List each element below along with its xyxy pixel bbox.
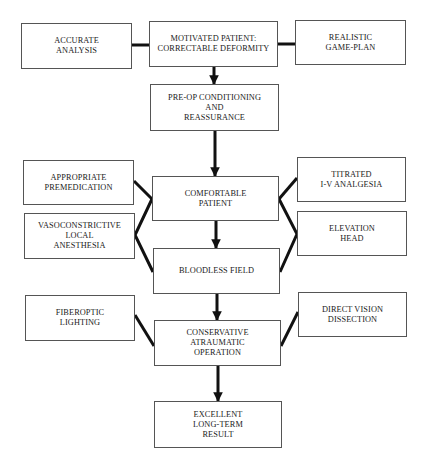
node-label: ELEVATION HEAD <box>329 224 375 244</box>
node-fiberoptic-lighting: FIBEROPTIC LIGHTING <box>25 295 135 341</box>
node-label: BLOODLESS FIELD <box>179 266 254 276</box>
node-label: DIRECT VISION DISSECTION <box>322 305 383 325</box>
node-label: TITRATED I-V ANALGESIA <box>321 170 383 190</box>
node-direct-vision-dissection: DIRECT VISION DISSECTION <box>298 292 407 337</box>
node-accurate-analysis: ACCURATE ANALYSIS <box>21 23 132 69</box>
connector-premedication-to-comfortable <box>134 181 152 199</box>
node-label: PRE-OP CONDITIONING AND REASSURANCE <box>168 93 261 123</box>
node-label: VASOCONSTRICTIVE LOCAL ANESTHESIA <box>38 221 121 251</box>
node-label: MOTIVATED PATIENT: CORRECTABLE DEFORMITY <box>158 34 270 54</box>
node-label: APPROPRIATE PREMEDICATION <box>44 173 112 193</box>
node-label: COMFORTABLE PATIENT <box>185 189 247 209</box>
connector-titrated-to-comfortable <box>279 178 297 199</box>
node-motivated-patient: MOTIVATED PATIENT: CORRECTABLE DEFORMITY <box>149 21 278 67</box>
node-elevation-head: ELEVATION HEAD <box>297 211 407 256</box>
node-label: FIBEROPTIC LIGHTING <box>56 308 104 328</box>
node-excellent-long-term-result: EXCELLENT LONG-TERM RESULT <box>154 401 282 448</box>
connector-directvision-to-conservative <box>281 312 298 346</box>
connector-elevation-to-comfortable-bloodless <box>279 199 297 272</box>
node-label: EXCELLENT LONG-TERM RESULT <box>193 410 243 440</box>
node-bloodless-field: BLOODLESS FIELD <box>153 248 280 294</box>
node-conservative-atraumatic-operation: CONSERVATIVE ATRAUMATIC OPERATION <box>154 320 281 366</box>
node-label: ACCURATE ANALYSIS <box>54 36 99 56</box>
connector-vasoconstrictive-to-comfortable-bloodless <box>135 199 153 272</box>
node-label: REALISTIC GAME-PLAN <box>326 33 376 53</box>
node-realistic-game-plan: REALISTIC GAME-PLAN <box>295 20 406 65</box>
node-label: CONSERVATIVE ATRAUMATIC OPERATION <box>186 328 248 358</box>
node-vasoconstrictive-local-anesthesia: VASOCONSTRICTIVE LOCAL ANESTHESIA <box>24 213 135 259</box>
node-preop-conditioning: PRE-OP CONDITIONING AND REASSURANCE <box>150 84 279 131</box>
node-appropriate-premedication: APPROPRIATE PREMEDICATION <box>23 160 134 205</box>
node-titrated-iv-analgesia: TITRATED I-V ANALGESIA <box>297 157 406 202</box>
connector-fiberoptic-to-conservative <box>135 315 154 346</box>
node-comfortable-patient: COMFORTABLE PATIENT <box>152 176 279 221</box>
